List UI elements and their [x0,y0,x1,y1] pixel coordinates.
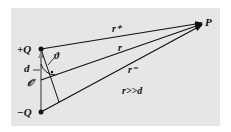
plus-charge-label: +Q [17,43,31,55]
separation-label: d [24,62,30,74]
point-p-label: P [205,16,212,28]
dipole-diagram: +Q −Q d 𝒪 ϑ P r⁺ r r⁻ r>>d [0,0,231,132]
plus-charge-dot [39,47,44,52]
right-angle-dot [51,71,53,73]
minus-charge-dot [39,110,44,115]
r-label: r [118,42,122,53]
condition-label: r>>d [122,85,143,96]
minus-charge-label: −Q [17,106,32,118]
angle-label: ϑ [54,50,60,61]
